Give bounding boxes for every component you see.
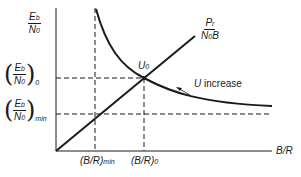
y-axis-label-denominator: N0 bbox=[29, 24, 40, 35]
x-tick-br-min: (B/R)min bbox=[80, 156, 115, 166]
x-tick-br-0: (B/R)0 bbox=[131, 156, 158, 166]
operating-point-marker bbox=[142, 76, 146, 80]
power-line bbox=[56, 36, 195, 151]
power-line-label-numerator: Pr bbox=[204, 18, 215, 30]
y-tick-eb-n0-min: ( Eb N0 ) min bbox=[4, 98, 47, 122]
y-tick-eb-n0-0: ( Eb N0 ) 0 bbox=[4, 62, 39, 86]
y-axis-label: Eb N0 bbox=[28, 12, 41, 35]
arrow-head-icon bbox=[176, 87, 182, 91]
u-increase-label: U increase bbox=[194, 79, 242, 89]
operating-point-label: U0 bbox=[138, 61, 149, 71]
efficiency-tradeoff-diagram bbox=[0, 0, 301, 177]
x-axis-label: B/R bbox=[276, 146, 293, 156]
power-line-label: Pr N0B bbox=[201, 18, 219, 41]
y-axis-label-numerator: Eb bbox=[28, 12, 41, 24]
power-line-label-denominator: N0B bbox=[201, 30, 219, 41]
u-increase-text: increase bbox=[204, 78, 242, 89]
